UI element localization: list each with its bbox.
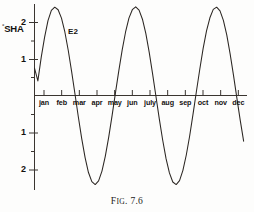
y-tick-label-minus-1: 1: [16, 127, 26, 137]
y-tick-label-minus-2: 2: [16, 164, 26, 174]
x-tick-label-may: may: [108, 98, 122, 107]
x-tick-marks: [44, 90, 238, 96]
x-tick-label-aug: aug: [161, 98, 173, 107]
caption-smallcaps: IG: [116, 197, 125, 206]
figure-caption: FIG. 7.6: [0, 196, 254, 206]
x-tick-label-sep: sep: [179, 98, 191, 107]
x-tick-label-dec: dec: [232, 98, 244, 107]
x-tick-label-jan: jan: [39, 98, 49, 107]
y-tick-label-1: 1: [16, 54, 26, 64]
x-tick-label-feb: feb: [56, 98, 66, 107]
figure-7-6: °SHA 2 1 1 2 jan feb mar apr may jun jul…: [0, 0, 254, 212]
caption-suffix: . 7.6: [125, 196, 143, 206]
y-tick-marks: [29, 23, 35, 171]
x-tick-label-oct: oct: [198, 98, 208, 107]
x-tick-label-apr: apr: [92, 98, 103, 107]
x-tick-label-jun: jun: [127, 98, 137, 107]
y-tick-label-2: 2: [16, 17, 26, 27]
x-tick-label-mar: mar: [73, 98, 86, 107]
x-tick-label-july: july: [144, 98, 156, 107]
x-tick-label-nov: nov: [214, 98, 226, 107]
series-annotation-e2: E2: [68, 28, 78, 36]
